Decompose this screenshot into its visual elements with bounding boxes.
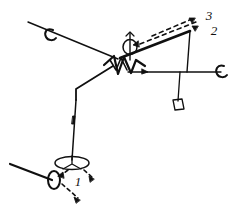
- left-branch-collar: [72, 116, 75, 124]
- callout-label-2: 2: [211, 23, 218, 38]
- figure-canvas: 1 2 3: [0, 0, 235, 205]
- callout-label-1: 1: [75, 174, 82, 189]
- callout-label-3: 3: [205, 8, 213, 23]
- line-drawing: 1 2 3: [0, 0, 235, 205]
